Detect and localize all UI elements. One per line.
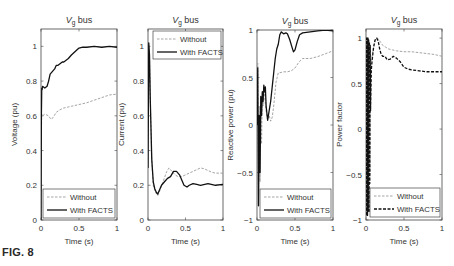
- figure-label: FIG. 8: [2, 246, 34, 258]
- y-tick-label: 0.4: [133, 147, 145, 156]
- y-tick-label: 0.5: [351, 80, 363, 89]
- y-tick-label: 0.4: [26, 147, 38, 156]
- y-tick-label: 1: [358, 34, 363, 43]
- y-axis-label: Reactive power (pu): [226, 89, 235, 161]
- x-tick-label: 0.5: [398, 224, 410, 233]
- y-tick-label: 0.5: [242, 74, 254, 83]
- x-tick-label: 1: [331, 224, 336, 233]
- legend: WithoutWith FACTS: [370, 188, 440, 217]
- x-tick-label: 0: [39, 224, 44, 233]
- legend-entry-label: Without: [70, 193, 97, 202]
- y-tick-label: 1: [140, 42, 145, 51]
- legend: WithoutWith FACTS: [260, 189, 331, 218]
- y-tick-label: 0: [358, 125, 363, 134]
- y-tick-label: −0.5: [346, 171, 362, 180]
- legend: WithoutWith FACTS: [153, 31, 223, 59]
- x-tick-label: 0.5: [73, 224, 85, 233]
- legend-entry-label: Without: [180, 35, 207, 44]
- y-tick-label: 1: [33, 42, 38, 51]
- x-axis-label: Time (s): [280, 237, 309, 246]
- y-axis-label: Power factor: [335, 102, 344, 147]
- y-axis-label: Voltage (pu): [10, 103, 19, 146]
- x-axis-label: Time (s): [389, 237, 418, 246]
- subplot-title: Vg bus: [66, 15, 93, 27]
- legend: WithoutWith FACTS: [43, 189, 115, 218]
- y-tick-label: 0.2: [26, 181, 38, 190]
- subplot-1: Vg bus00.20.40.60.8100.51Time (s)Voltage…: [10, 15, 120, 246]
- x-tick-label: 0: [255, 224, 260, 233]
- y-tick-label: −1: [353, 216, 363, 225]
- legend-entry-label: Without: [397, 192, 424, 201]
- legend-entry-label: With FACTS: [70, 206, 113, 215]
- y-tick-label: −0.5: [237, 169, 253, 178]
- y-tick-label: 0: [33, 216, 38, 225]
- subplot-title: Vg bus: [391, 15, 418, 27]
- legend-entry-label: With FACTS: [397, 205, 440, 214]
- legend-entry-label: With FACTS: [180, 48, 223, 57]
- subplot-4: Vg bus−1−0.500.5100.51Time (s)Power fact…: [335, 15, 445, 246]
- y-tick-label: 0.8: [133, 77, 145, 86]
- y-tick-label: 0.2: [133, 181, 145, 190]
- x-axis-label: Time (s): [64, 237, 93, 246]
- y-tick-label: 0.8: [26, 77, 38, 86]
- subplot-2: Vg bus00.20.40.60.8100.51Time (s)Current…: [117, 15, 226, 246]
- legend-entry-label: Without: [287, 193, 314, 202]
- y-tick-label: 1: [249, 26, 254, 35]
- y-tick-label: 0.6: [26, 112, 38, 121]
- subplot-title: Vg bus: [282, 16, 309, 28]
- x-tick-label: 1: [221, 224, 226, 233]
- y-tick-label: 0: [249, 121, 254, 130]
- x-tick-label: 0: [364, 224, 369, 233]
- x-tick-label: 0: [146, 224, 151, 233]
- x-axis-label: Time (s): [171, 237, 200, 246]
- y-axis-label: Current (pu): [117, 103, 126, 146]
- x-tick-label: 0.5: [180, 224, 192, 233]
- figure-canvas: Vg bus00.20.40.60.8100.51Time (s)Voltage…: [0, 0, 454, 266]
- y-tick-label: −1: [244, 216, 254, 225]
- subplot-3: Vg bus−1−0.500.5100.51Time (s)Reactive p…: [226, 16, 336, 246]
- y-tick-label: 0.6: [133, 112, 145, 121]
- subplot-title: Vg bus: [172, 15, 199, 27]
- x-tick-label: 1: [440, 224, 445, 233]
- x-tick-label: 1: [115, 224, 120, 233]
- x-tick-label: 0.5: [289, 224, 301, 233]
- legend-entry-label: With FACTS: [287, 206, 330, 215]
- y-tick-label: 0: [140, 216, 145, 225]
